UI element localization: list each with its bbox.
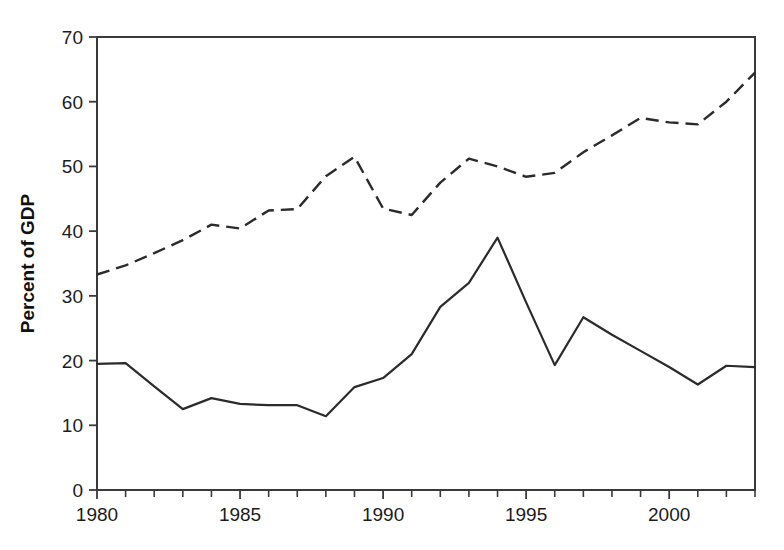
y-tick-label: 60 — [62, 92, 83, 113]
x-tick-label: 1985 — [219, 504, 261, 525]
y-tick-label: 10 — [62, 415, 83, 436]
x-tick-label: 1980 — [76, 504, 118, 525]
series-dashed-line — [97, 73, 755, 275]
chart-container: 010203040506070 19801985199019952000 Per… — [0, 0, 784, 550]
series-group — [97, 73, 755, 417]
y-tick-label: 0 — [72, 480, 83, 501]
plot-border — [97, 37, 755, 490]
series-solid-line — [97, 238, 755, 417]
y-axis-title: Percent of GDP — [17, 193, 38, 333]
y-tick-label: 30 — [62, 286, 83, 307]
y-axis-tick-marks — [89, 37, 97, 490]
y-tick-label: 40 — [62, 221, 83, 242]
x-tick-label: 1990 — [362, 504, 404, 525]
y-tick-label: 20 — [62, 351, 83, 372]
y-axis-tick-labels: 010203040506070 — [62, 27, 83, 501]
x-axis-tick-marks — [97, 490, 755, 499]
y-tick-label: 50 — [62, 156, 83, 177]
x-axis-tick-labels: 19801985199019952000 — [76, 504, 690, 525]
y-tick-label: 70 — [62, 27, 83, 48]
plot-frame — [97, 37, 755, 490]
line-chart: 010203040506070 19801985199019952000 Per… — [0, 0, 784, 550]
x-tick-label: 2000 — [648, 504, 690, 525]
x-tick-label: 1995 — [505, 504, 547, 525]
